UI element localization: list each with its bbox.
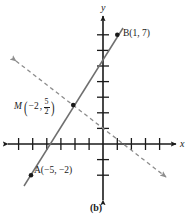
point-M-open-paren: ( [24, 99, 28, 116]
figure-caption: (b) [0, 202, 192, 213]
coordinate-plane-figure: x y B(1, 7) A(−5, −2) M ( −2 , 5 2 ) (b) [0, 0, 192, 219]
point-A-label: A(−5, −2) [34, 166, 72, 176]
point-A-dot [29, 173, 34, 178]
point-M-comma: , [40, 102, 42, 112]
point-M-x-value: −2 [29, 102, 39, 112]
point-M-name: M [14, 102, 22, 112]
point-B-label: B(1, 7) [123, 29, 150, 39]
y-axis-label: y [101, 3, 105, 13]
point-M-dot [71, 103, 76, 108]
x-axis-label: x [180, 139, 184, 149]
fraction-denominator: 2 [44, 108, 50, 116]
point-M-close-paren: ) [51, 99, 55, 116]
point-B-dot [115, 33, 120, 38]
fraction-numerator: 5 [44, 98, 50, 106]
point-M-y-fraction: 5 2 [44, 98, 50, 116]
point-M-label: M ( −2 , 5 2 ) [14, 98, 55, 116]
